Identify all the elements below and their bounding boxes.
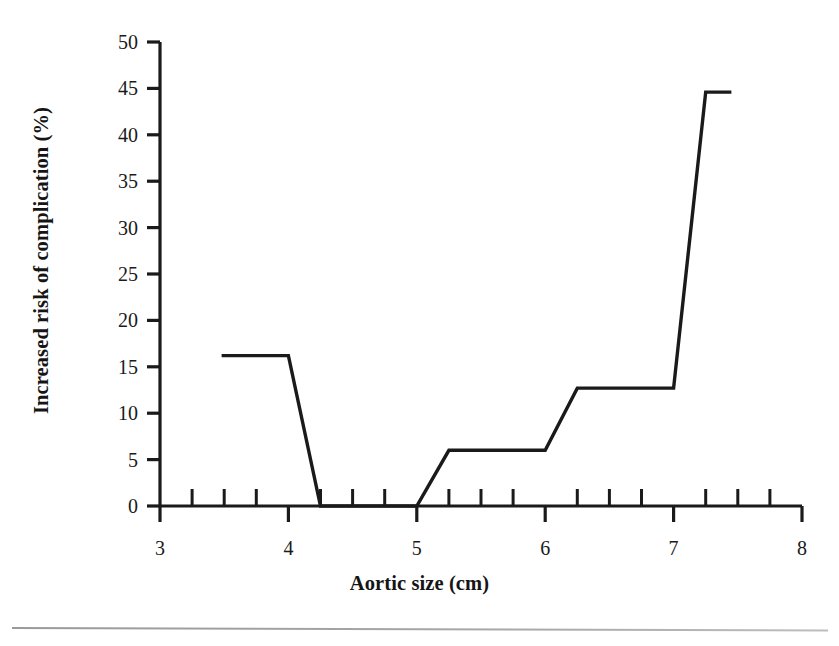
y-tick-label: 45 <box>42 77 138 100</box>
y-tick-label: 35 <box>42 170 138 193</box>
y-tick-label: 25 <box>42 263 138 286</box>
y-tick-label: 5 <box>42 448 138 471</box>
y-tick-label: 0 <box>42 495 138 518</box>
y-tick-label: 10 <box>42 402 138 425</box>
x-tick-label: 7 <box>669 537 679 560</box>
x-tick-label: 6 <box>540 537 550 560</box>
y-tick-label: 40 <box>42 123 138 146</box>
x-axis-label: Aortic size (cm) <box>0 572 839 595</box>
y-tick-label: 50 <box>42 31 138 54</box>
chart-figure: Increased risk of complication (%) 05101… <box>0 0 839 646</box>
data-series-line <box>222 92 732 506</box>
x-tick-label: 3 <box>155 537 165 560</box>
y-tick-label: 15 <box>42 355 138 378</box>
x-tick-label: 4 <box>283 537 293 560</box>
y-tick-label: 20 <box>42 309 138 332</box>
x-tick-label: 5 <box>412 537 422 560</box>
y-tick-label: 30 <box>42 216 138 239</box>
x-tick-label: 8 <box>797 537 807 560</box>
